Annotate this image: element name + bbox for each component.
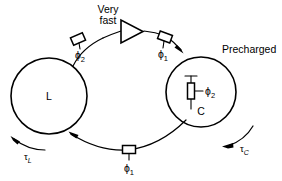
right-node-label: C [197, 105, 205, 117]
bottom-switch-phase-label: ϕ1 [124, 162, 134, 177]
tau-C-delay-arrow [222, 126, 253, 149]
diagram-canvas: L ϕ2 C Very fast [0, 0, 282, 181]
top-right-switch [158, 31, 173, 48]
bottom-path-left-segment [71, 134, 128, 150]
circuit-loop-diagram: L ϕ2 C Very fast [0, 0, 282, 181]
bottom-switch [123, 146, 136, 161]
tau-L-label: τL [24, 151, 32, 164]
bottom-path-arrowhead [69, 132, 79, 139]
precharged-label: Precharged [222, 43, 276, 55]
top-right-switch-phase-label: ϕ1 [158, 48, 168, 63]
top-path-amp-input-lead [103, 31, 121, 38]
top-left-switch [70, 33, 85, 49]
buffer-amplifier-triangle [121, 20, 143, 43]
tau-C-label: τC [240, 143, 250, 156]
very-fast-label-line2: fast [100, 14, 117, 26]
bottom-path-right-segment [128, 120, 186, 150]
left-node-label: L [46, 90, 52, 102]
tau-L-delay-arrow [11, 136, 46, 150]
top-path-arrowhead [175, 45, 184, 54]
capacitor-gate-phase-label: ϕ2 [205, 85, 215, 100]
